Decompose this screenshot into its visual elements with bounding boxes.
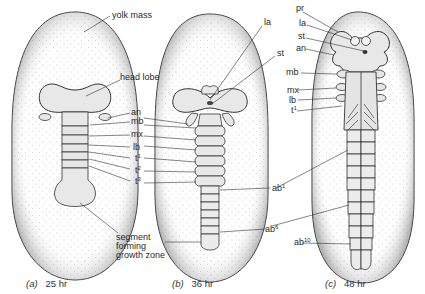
caption-a-time: 25 hr — [46, 278, 68, 289]
label-ab1-text: ab — [272, 183, 282, 193]
caption-b-time: 36 hr — [192, 278, 214, 289]
label-ab6-text: ab — [265, 224, 275, 234]
label-ab10: ab10 — [294, 238, 311, 247]
caption-c: (c) 48 hr — [325, 278, 366, 289]
label-t1-a: t1 — [135, 154, 141, 163]
label-st-c: st — [298, 32, 305, 41]
caption-a-letter: (a) — [26, 278, 38, 289]
label-pr: pr — [296, 4, 304, 13]
egg-b — [144, 14, 275, 282]
caption-b: (b) 36 hr — [172, 278, 213, 289]
label-ab6: ab6 — [265, 225, 278, 234]
label-ab6-sup: 6 — [275, 224, 278, 230]
caption-a: (a) 25 hr — [26, 278, 67, 289]
label-t1-c: t1 — [291, 106, 297, 115]
label-t2-sup: 2 — [138, 165, 141, 171]
label-ab1: ab1 — [272, 184, 285, 193]
embryo-diagram — [0, 0, 425, 294]
label-mx-c: mx — [287, 86, 299, 95]
label-t1-sup: 1 — [138, 153, 141, 159]
label-lb-a: lb — [133, 143, 140, 152]
label-head-lobe: head lobe — [120, 73, 160, 82]
label-mb-c: mb — [286, 68, 299, 77]
label-t3-a: t3 — [135, 177, 141, 186]
label-t3-sup: 3 — [138, 176, 141, 182]
label-la-c: la — [299, 19, 306, 28]
caption-c-letter: (c) — [325, 278, 336, 289]
label-t2-a: t2 — [135, 166, 141, 175]
label-mb-a: mb — [131, 117, 144, 126]
label-growth-zone: growth zone — [116, 251, 165, 260]
label-lb-c: lb — [289, 96, 296, 105]
label-ab1-sup: 1 — [282, 183, 285, 189]
label-ab10-sup: 10 — [304, 237, 311, 243]
caption-c-time: 48 hr — [344, 278, 366, 289]
label-ab10-text: ab — [294, 237, 304, 247]
label-yolk-mass: yolk mass — [112, 11, 152, 20]
label-t1-c-sup: 1 — [294, 105, 297, 111]
label-la-b: la — [264, 18, 271, 27]
label-mx-a: mx — [131, 130, 143, 139]
caption-b-letter: (b) — [172, 278, 184, 289]
label-an-c: an — [296, 44, 306, 53]
label-st-b: st — [277, 49, 284, 58]
